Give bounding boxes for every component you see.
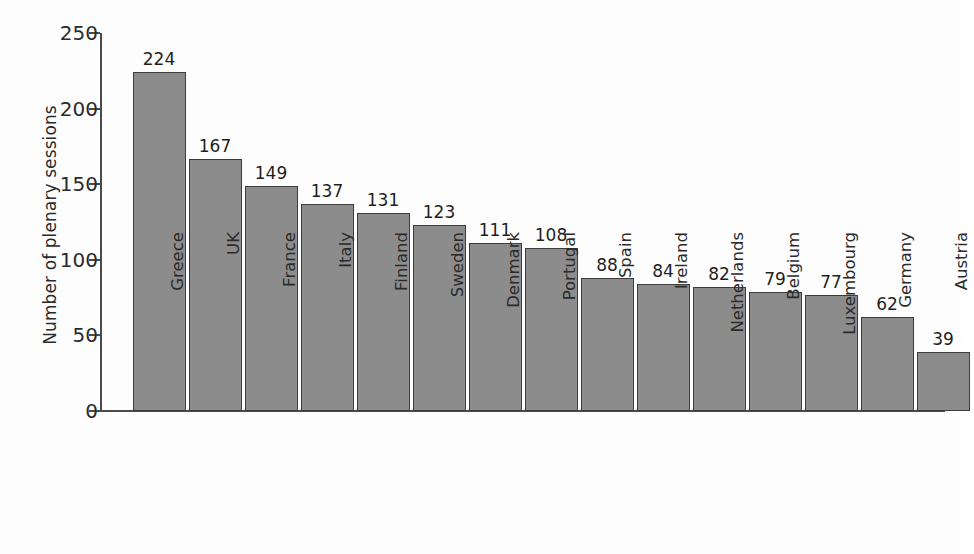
bar-value-label: 149 <box>240 165 302 182</box>
x-axis-category-label: Italy <box>336 232 355 392</box>
bar-value-label: 137 <box>296 183 358 200</box>
bar-value-label: 131 <box>352 192 414 209</box>
x-axis-category-label: UK <box>224 232 243 392</box>
x-axis-category-label: Ireland <box>672 232 691 392</box>
x-axis-category-label: Portugal <box>560 232 579 392</box>
x-axis-category-label: Austria <box>952 232 971 392</box>
x-axis-category-label: Finland <box>392 232 411 392</box>
bar-value-label: 123 <box>408 204 470 221</box>
x-axis-category-label: Belgium <box>784 232 803 392</box>
y-tick-label: 50 <box>38 325 98 345</box>
x-axis-category-label: Greece <box>168 232 187 392</box>
x-axis-category-label: Spain <box>616 232 635 392</box>
x-axis-category-label: Luxembourg <box>840 232 859 392</box>
x-axis-category-label: Germany <box>896 232 915 392</box>
bar-value-label: 224 <box>128 51 190 68</box>
x-axis-category-label: Sweden <box>448 232 467 392</box>
y-tick-label: 250 <box>38 23 98 43</box>
y-tick-label: 100 <box>38 250 98 270</box>
x-axis-category-label: Denmark <box>504 232 523 392</box>
x-axis-category-label: France <box>280 232 299 392</box>
y-tick-label: 0 <box>38 401 98 421</box>
bar-value-label: 167 <box>184 138 246 155</box>
x-axis-category-label: Netherlands <box>728 232 747 392</box>
y-tick-label: 150 <box>38 174 98 194</box>
y-tick-label: 200 <box>38 99 98 119</box>
